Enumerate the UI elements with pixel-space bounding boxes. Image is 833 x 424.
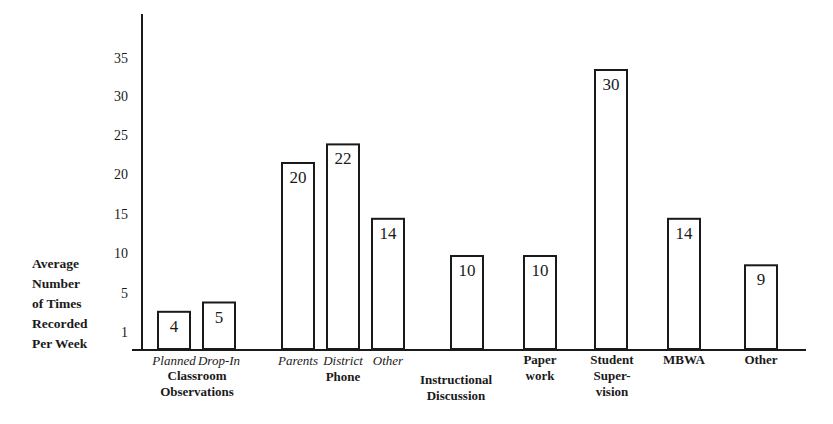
bar-sub-label: Drop-In [197, 353, 240, 368]
y-axis-label-line: Number [32, 276, 80, 291]
category-label: Classroom [168, 368, 227, 383]
bar-value-label: 9 [757, 270, 766, 289]
bar [595, 70, 627, 349]
y-axis-label-line: Recorded [32, 316, 88, 331]
bar [327, 144, 359, 349]
category-label: Student [590, 352, 634, 367]
category-label: Observations [160, 384, 234, 399]
category-label: Phone [326, 369, 361, 384]
bar-sub-label: Planned [151, 353, 196, 368]
y-tick-label: 1 [121, 325, 128, 340]
y-axis-label-line: of Times [32, 296, 81, 311]
y-tick-label: 10 [114, 246, 128, 261]
bar [282, 163, 314, 349]
bar-value-label: 20 [290, 168, 307, 187]
y-tick-label: 25 [114, 128, 128, 143]
bar-chart: 15101520253035 AverageNumberof TimesReco… [0, 0, 833, 424]
y-axis-label-line: Per Week [32, 336, 88, 351]
bar-value-label: 30 [603, 75, 620, 94]
bar-sub-label: District [322, 353, 363, 368]
y-tick-label: 15 [114, 207, 128, 222]
y-tick-label: 35 [114, 51, 128, 66]
bar-value-label: 5 [215, 308, 224, 327]
bar-sub-label: Parents [277, 353, 318, 368]
bar-value-label: 14 [676, 224, 694, 243]
category-label: Paper [523, 352, 556, 367]
bar-value-label: 14 [380, 224, 398, 243]
bar-value-label: 22 [335, 149, 352, 168]
category-label: MBWA [663, 352, 706, 367]
y-tick-label: 30 [114, 89, 128, 104]
category-label: Instructional [420, 372, 493, 387]
bar-value-label: 10 [459, 261, 476, 280]
category-label: Other [744, 352, 777, 367]
category-label: Discussion [427, 388, 486, 403]
bar-sub-label: Other [373, 353, 404, 368]
bar-value-label: 10 [532, 261, 549, 280]
y-tick-label: 5 [121, 286, 128, 301]
y-axis-label-line: Average [32, 256, 79, 271]
category-label: work [526, 368, 556, 383]
bar-value-label: 4 [170, 317, 179, 336]
y-tick-label: 20 [114, 167, 128, 182]
category-label: Super- [593, 368, 630, 383]
category-label: vision [596, 384, 629, 399]
